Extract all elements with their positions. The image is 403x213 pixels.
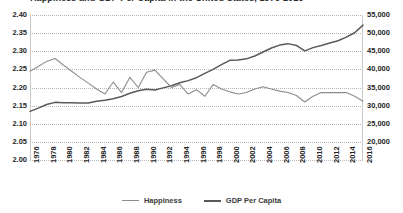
x-axis-tick-label: 1986 [116,146,124,163]
x-axis-tick-label: 2008 [299,146,307,163]
x-axis-tick-label: 1994 [183,146,191,163]
x-axis-tick-label: 2002 [249,146,257,163]
x-axis-tick-label: 2014 [349,146,357,163]
left-axis-tick-label: 2.05 [12,138,27,146]
left-axis-tick-label: 2.30 [12,47,27,55]
right-axis-tick-label: 35,000 [367,84,390,92]
happiness-line [30,59,363,103]
left-axis-tick-label: 2.20 [12,84,27,92]
left-axis-tick-label: 2.35 [12,29,27,37]
series-lines [30,15,363,160]
left-axis-tick-label: 2.10 [12,120,27,128]
right-axis-tick-label: 25,000 [367,120,390,128]
right-axis-tick-label: 45,000 [367,47,390,55]
grid-line [30,160,363,161]
gdp-line-swatch [204,200,221,202]
chart-title-strip: Happiness and GDP Per Capita in the Unit… [0,0,403,7]
left-axis-tick-label: 2.25 [12,65,27,73]
chart-legend: Happiness GDP Per Capita [0,197,403,205]
x-axis-tick-label: 1980 [66,146,74,163]
left-axis-tick-label: 2.15 [12,102,27,110]
x-axis-tick-label: 2016 [366,146,374,163]
chart-container: Happiness and GDP Per Capita in the Unit… [0,0,403,213]
left-axis-tick-label: 2.00 [12,156,27,164]
x-axis-tick-label: 1988 [133,146,141,163]
x-axis-tick-label: 1984 [100,146,108,163]
x-axis-tick-label: 1990 [150,146,158,163]
happiness-line-swatch [122,200,139,201]
x-axis-tick-label: 1996 [200,146,208,163]
x-axis-tick-label: 1992 [166,146,174,163]
plot-area [30,15,363,160]
right-axis-tick-label: 20,000 [367,138,390,146]
left-axis-tick-label: 2.40 [12,11,27,19]
x-axis-tick-label: 1978 [50,146,58,163]
x-axis-tick-label: 2010 [316,146,324,163]
right-axis-tick-label: 50,000 [367,29,390,37]
legend-label-happiness: Happiness [144,197,182,205]
x-axis-tick-label: 1998 [216,146,224,163]
right-axis-tick-label: 30,000 [367,102,390,110]
chart-title: Happiness and GDP Per Capita in the Unit… [30,0,303,3]
x-axis-tick-label: 2012 [333,146,341,163]
legend-item-happiness[interactable]: Happiness [122,197,182,205]
gdp-per-capita-line [30,25,363,111]
x-axis-tick-label: 1976 [33,146,41,163]
x-axis-tick-label: 2006 [283,146,291,163]
x-axis-tick-label: 2004 [266,146,274,163]
legend-item-gdp[interactable]: GDP Per Capita [204,197,281,205]
x-axis-tick-label: 2000 [233,146,241,163]
right-axis-tick-label: 55,000 [367,11,390,19]
x-axis-tick-label: 1982 [83,146,91,163]
legend-label-gdp: GDP Per Capita [226,197,281,205]
right-axis-tick-label: 40,000 [367,65,390,73]
